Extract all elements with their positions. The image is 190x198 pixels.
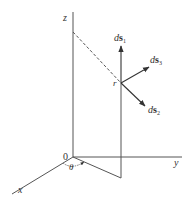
radial-projection-line [73,157,121,178]
cylindrical-coordinates-diagram: z y x 0 θ r ds1 ds3 ds2 [0,0,190,198]
theta-label: θ [69,162,74,172]
y-axis-label: y [173,157,179,168]
ds2-label: ds2 [148,104,160,116]
ds2-vector-arrow [121,83,145,106]
x-axis-label: x [17,184,23,195]
point-r-label: r [113,78,117,88]
ds3-label: ds3 [150,54,162,66]
origin-label: 0 [63,151,68,162]
ds1-label: ds1 [114,32,126,44]
theta-arc [63,162,84,166]
z-axis-label: z [62,12,67,23]
ds3-vector-arrow [121,67,149,83]
